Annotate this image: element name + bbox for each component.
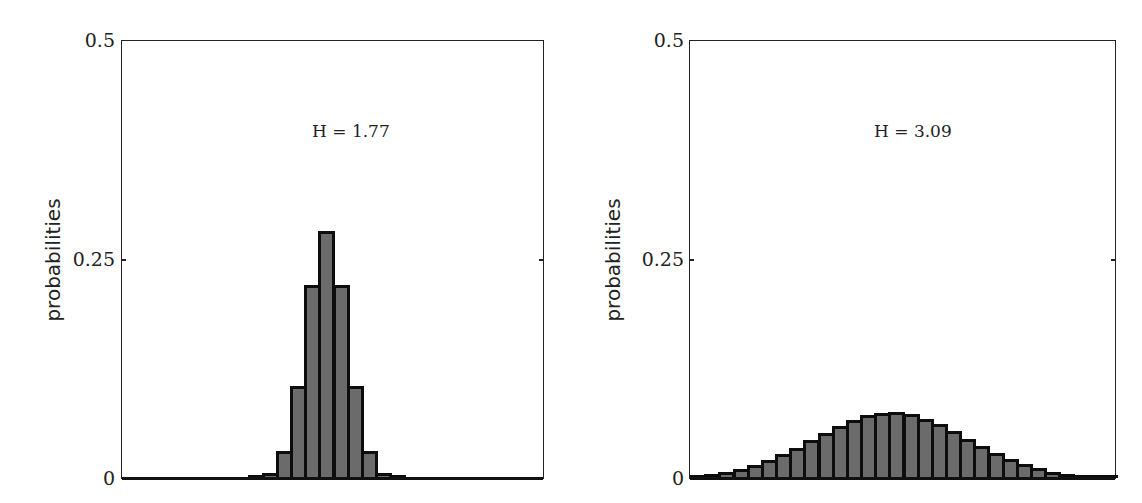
right-ytick-0.5: 0.5	[624, 30, 684, 50]
left-ytick-0.5: 0.5	[55, 30, 115, 50]
left-baseline	[122, 477, 543, 480]
right-chart-panel: probabilities 0.5 0.25 0 H = 3.09	[571, 0, 1142, 503]
right-y-axis-label: probabilities	[601, 180, 625, 340]
left-plot-area: H = 1.77	[121, 40, 544, 479]
right-ytick-0.25: 0.25	[624, 249, 684, 269]
right-plot-area: H = 3.09	[689, 40, 1116, 479]
right-ytick-0: 0	[624, 468, 684, 488]
left-chart-panel: probabilities 0.5 0.25 0 H = 1.77	[0, 0, 571, 503]
right-baseline	[690, 477, 1115, 480]
left-ytick-0: 0	[55, 468, 115, 488]
left-bars	[122, 41, 543, 478]
right-bars	[690, 41, 1115, 478]
left-ytick-0.25: 0.25	[55, 249, 115, 269]
